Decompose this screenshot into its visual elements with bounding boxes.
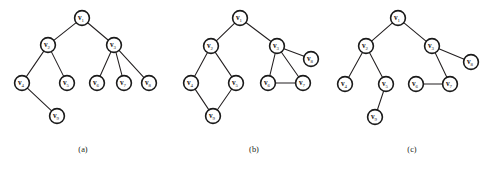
panel-a: v1v2v3v4v5v6v7v8v9(a): [15, 11, 157, 154]
edge-layer: [26, 23, 144, 111]
graph-node-a-v4[interactable]: v4: [15, 76, 30, 91]
graph-node-b-v4[interactable]: v4: [184, 76, 199, 91]
graph-node-c-v8[interactable]: v8: [464, 55, 479, 70]
graph-node-b-v1[interactable]: v1: [233, 11, 248, 26]
node-layer: v1v2v3v4v5v6v7v8v9: [184, 11, 319, 124]
graph-node-c-v6[interactable]: v6: [409, 77, 424, 92]
graph-edge: [216, 23, 234, 41]
graph-node-c-v2[interactable]: v2: [359, 39, 374, 54]
node-layer: v1v2v3v4v5v6v7v8v9: [15, 11, 157, 124]
graph-node-b-v8[interactable]: v8: [304, 52, 319, 67]
graph-edge: [246, 22, 271, 41]
graph-node-c-v7[interactable]: v7: [443, 77, 458, 92]
graph-node-c-v3[interactable]: v3: [425, 39, 440, 54]
graph-edge: [369, 53, 382, 78]
panel-b: v1v2v3v4v5v6v7v8v9(b): [184, 11, 319, 154]
graph-node-c-v5[interactable]: v5: [379, 77, 394, 92]
graph-node-b-v5[interactable]: v5: [229, 76, 244, 91]
panel-c: v1v2v3v4v5v6v7v8v9(c): [338, 11, 479, 154]
graph-node-a-v8[interactable]: v8: [142, 76, 157, 91]
graph-node-b-v7[interactable]: v7: [296, 76, 311, 91]
graph-node-c-v1[interactable]: v1: [391, 11, 406, 26]
node-layer: v1v2v3v4v5v6v7v8v9: [338, 11, 479, 125]
figure-container: v1v2v3v4v5v6v7v8v9(a)v1v2v3v4v5v6v7v8v9(…: [0, 0, 494, 171]
graph-node-b-v9[interactable]: v9: [206, 109, 221, 124]
graph-node-c-v9[interactable]: v9: [368, 110, 383, 125]
graph-edge: [51, 52, 63, 77]
graph-edge: [215, 52, 232, 77]
graph-edge: [195, 53, 208, 77]
graph-edge: [349, 52, 363, 77]
graph-figure-canvas: v1v2v3v4v5v6v7v8v9(a)v1v2v3v4v5v6v7v8v9(…: [0, 0, 494, 171]
graph-node-a-v3[interactable]: v3: [107, 38, 122, 53]
panels-root: v1v2v3v4v5v6v7v8v9(a)v1v2v3v4v5v6v7v8v9(…: [15, 11, 479, 154]
graph-node-b-v3[interactable]: v3: [270, 39, 285, 54]
graph-node-a-v6[interactable]: v6: [90, 76, 105, 91]
panel-caption: (c): [407, 145, 417, 154]
graph-node-a-v1[interactable]: v1: [75, 11, 90, 26]
panel-caption: (b): [249, 145, 259, 154]
panel-caption: (a): [78, 145, 88, 154]
graph-edge: [100, 52, 111, 77]
graph-edge: [116, 52, 122, 76]
graph-edge: [404, 23, 427, 42]
graph-edge: [195, 89, 209, 110]
graph-edge: [54, 23, 76, 41]
graph-edge: [270, 53, 276, 76]
graph-edge: [281, 52, 299, 77]
graph-edge: [377, 91, 383, 110]
graph-node-a-v5[interactable]: v5: [60, 76, 75, 91]
graph-edge: [27, 88, 51, 111]
edge-layer: [195, 22, 305, 109]
graph-edge: [284, 49, 304, 57]
graph-edge: [119, 50, 144, 77]
graph-node-a-v2[interactable]: v2: [41, 38, 56, 53]
graph-edge: [439, 49, 464, 59]
graph-edge: [88, 23, 109, 40]
graph-edge: [372, 23, 393, 41]
graph-edge: [435, 53, 447, 78]
graph-edge: [26, 51, 44, 77]
graph-edge: [217, 89, 232, 110]
graph-node-a-v7[interactable]: v7: [117, 76, 132, 91]
graph-node-b-v6[interactable]: v6: [261, 76, 276, 91]
graph-node-a-v9[interactable]: v9: [50, 109, 65, 124]
graph-node-c-v4[interactable]: v4: [338, 77, 353, 92]
edge-layer: [349, 23, 465, 110]
graph-node-b-v2[interactable]: v2: [204, 39, 219, 54]
